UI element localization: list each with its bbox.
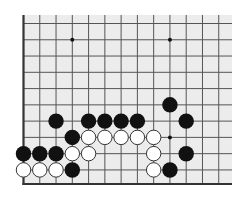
board-intersection[interactable] [130,33,144,47]
board-intersection[interactable] [130,81,144,95]
board-intersection[interactable] [98,81,112,95]
board-intersection[interactable] [65,81,79,95]
board-intersection[interactable] [49,98,63,112]
board-intersection[interactable] [49,49,63,63]
board-intersection[interactable] [212,81,226,95]
board-intersection[interactable] [130,16,144,30]
board-intersection[interactable] [212,114,226,128]
board-intersection[interactable] [179,16,193,30]
board-intersection[interactable] [114,33,128,47]
board-intersection[interactable] [81,98,95,112]
board-intersection[interactable] [16,114,30,128]
board-intersection[interactable] [81,33,95,47]
board-intersection[interactable] [114,49,128,63]
board-intersection[interactable] [195,33,209,47]
board-intersection[interactable] [114,65,128,79]
board-intersection[interactable] [179,130,193,144]
board-intersection[interactable] [179,33,193,47]
board-intersection[interactable] [212,163,226,177]
board-intersection[interactable] [195,49,209,63]
board-intersection[interactable] [81,16,95,30]
board-intersection[interactable] [33,114,47,128]
board-intersection[interactable] [98,147,112,161]
board-intersection[interactable] [212,147,226,161]
board-intersection[interactable] [65,49,79,63]
board-intersection[interactable] [179,98,193,112]
board-intersection[interactable] [212,130,226,144]
board-intersection[interactable] [49,81,63,95]
board-intersection[interactable] [65,65,79,79]
board-intersection[interactable] [195,163,209,177]
board-intersection[interactable] [65,98,79,112]
board-intersection[interactable] [163,147,177,161]
board-intersection[interactable] [114,81,128,95]
board-intersection[interactable] [163,33,177,47]
board-intersection[interactable] [98,49,112,63]
board-intersection[interactable] [65,114,79,128]
board-intersection[interactable] [147,98,161,112]
board-intersection[interactable] [16,81,30,95]
board-intersection[interactable] [163,65,177,79]
board-intersection[interactable] [212,65,226,79]
board-intersection[interactable] [114,16,128,30]
board-intersection[interactable] [195,98,209,112]
board-intersection[interactable] [98,33,112,47]
board-intersection[interactable] [98,16,112,30]
board-intersection[interactable] [147,33,161,47]
board-intersection[interactable] [33,49,47,63]
board-intersection[interactable] [81,163,95,177]
board-intersection[interactable] [33,33,47,47]
board-intersection[interactable] [33,98,47,112]
board-intersection[interactable] [16,65,30,79]
board-intersection[interactable] [179,163,193,177]
board-intersection[interactable] [130,98,144,112]
board-intersection[interactable] [65,33,79,47]
board-intersection[interactable] [49,33,63,47]
board-intersection[interactable] [16,33,30,47]
board-intersection[interactable] [65,16,79,30]
board-intersection[interactable] [147,16,161,30]
board-intersection[interactable] [163,16,177,30]
board-intersection[interactable] [33,65,47,79]
board-intersection[interactable] [49,130,63,144]
board-intersection[interactable] [114,147,128,161]
board-intersection[interactable] [49,65,63,79]
board-intersection[interactable] [130,49,144,63]
board-intersection[interactable] [33,81,47,95]
board-intersection[interactable] [147,65,161,79]
board-intersection[interactable] [179,49,193,63]
board-intersection[interactable] [212,16,226,30]
board-intersection[interactable] [163,81,177,95]
board-intersection[interactable] [195,65,209,79]
go-board[interactable] [0,0,246,197]
board-intersection[interactable] [81,49,95,63]
board-intersection[interactable] [212,49,226,63]
board-intersection[interactable] [147,114,161,128]
board-intersection[interactable] [98,163,112,177]
board-intersection[interactable] [195,81,209,95]
board-intersection[interactable] [81,81,95,95]
board-intersection[interactable] [130,163,144,177]
board-intersection[interactable] [163,130,177,144]
board-intersection[interactable] [179,81,193,95]
board-intersection[interactable] [16,16,30,30]
board-intersection[interactable] [195,130,209,144]
board-intersection[interactable] [81,65,95,79]
board-intersection[interactable] [16,130,30,144]
board-intersection[interactable] [49,16,63,30]
board-intersection[interactable] [114,163,128,177]
board-intersection[interactable] [212,33,226,47]
board-intersection[interactable] [16,49,30,63]
board-intersection[interactable] [179,65,193,79]
board-intersection[interactable] [212,98,226,112]
board-intersection[interactable] [163,114,177,128]
board-intersection[interactable] [98,65,112,79]
board-intersection[interactable] [114,98,128,112]
board-intersection[interactable] [130,65,144,79]
board-intersection[interactable] [195,147,209,161]
board-intersection[interactable] [147,49,161,63]
board-intersection[interactable] [33,16,47,30]
board-intersection[interactable] [16,98,30,112]
board-intersection[interactable] [98,98,112,112]
board-intersection[interactable] [33,130,47,144]
